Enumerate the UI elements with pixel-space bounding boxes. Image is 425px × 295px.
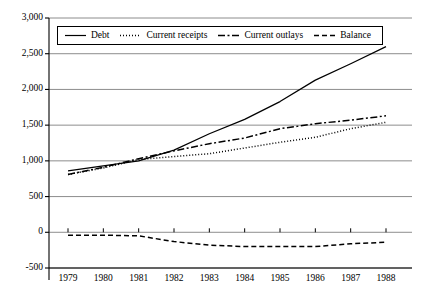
y-tick-label: 500 xyxy=(29,192,43,202)
legend-item-current-receipts: Current receipts xyxy=(120,31,218,41)
legend-line-sample-icon xyxy=(120,31,141,40)
series-line-balance xyxy=(68,235,386,246)
x-tick-label: 1982 xyxy=(154,274,194,284)
x-tick-label: 1986 xyxy=(295,274,335,284)
legend-item-debt: Debt xyxy=(65,31,120,41)
x-tick-label: 1979 xyxy=(48,274,88,284)
chart-legend: DebtCurrent receiptsCurrent outlaysBalan… xyxy=(57,26,383,45)
x-tick-label: 1981 xyxy=(119,274,159,284)
legend-line-sample-icon xyxy=(218,31,239,40)
y-tick-label: 3,000 xyxy=(22,13,43,23)
x-tick-label: 1987 xyxy=(331,274,371,284)
series-line-debt xyxy=(68,47,386,171)
legend-label: Current outlays xyxy=(244,31,303,41)
legend-line-sample-icon xyxy=(65,31,86,40)
y-tick-label: 1,500 xyxy=(22,120,43,130)
y-tick-label: -500 xyxy=(26,263,43,273)
legend-line-sample-icon xyxy=(314,31,335,40)
legend-item-balance: Balance xyxy=(314,31,371,41)
y-tick-label: 0 xyxy=(38,227,43,237)
legend-label: Current receipts xyxy=(146,31,207,41)
series-line-current-receipts xyxy=(68,122,386,174)
x-tick-label: 1980 xyxy=(83,274,123,284)
y-tick-label: 2,000 xyxy=(22,84,43,94)
legend-label: Balance xyxy=(340,31,371,41)
y-tick-label: 1,000 xyxy=(22,156,43,166)
x-tick-label: 1983 xyxy=(189,274,229,284)
line-chart: 3,0002,5002,0001,5001,0005000-500 197919… xyxy=(0,0,425,295)
legend-label: Debt xyxy=(91,31,109,41)
x-tick-label: 1984 xyxy=(225,274,265,284)
x-tick-label: 1988 xyxy=(366,274,406,284)
legend-item-current-outlays: Current outlays xyxy=(218,31,314,41)
x-tick-label: 1985 xyxy=(260,274,300,284)
y-tick-label: 2,500 xyxy=(22,49,43,59)
